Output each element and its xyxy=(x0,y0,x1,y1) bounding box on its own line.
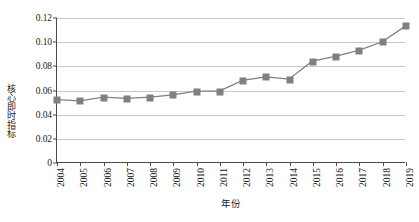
x-axis-title: 年份 xyxy=(56,196,405,210)
data-point xyxy=(193,88,200,95)
x-tick-label: 2013 xyxy=(265,168,275,187)
x-tick-label: 2018 xyxy=(382,168,392,187)
y-tick-label: 0.10 xyxy=(36,37,52,47)
data-point xyxy=(356,47,363,54)
x-tick-mark xyxy=(220,162,221,166)
x-tick-label: 2010 xyxy=(196,168,206,187)
x-tick-mark xyxy=(406,162,407,166)
x-tick-mark xyxy=(150,162,151,166)
x-tick-mark xyxy=(57,162,58,166)
data-point xyxy=(54,97,61,104)
x-tick-mark xyxy=(383,162,384,166)
x-tick-label: 2005 xyxy=(79,168,89,187)
y-tick-label: 0 xyxy=(47,158,52,168)
x-tick-label: 2006 xyxy=(103,168,113,187)
data-point xyxy=(100,94,107,101)
y-axis-title: 核心即时指标 xyxy=(6,84,15,138)
series-line xyxy=(57,18,405,162)
x-tick-label: 2008 xyxy=(149,168,159,187)
data-point xyxy=(77,98,84,105)
y-tick-label: 0.04 xyxy=(36,110,52,120)
x-tick-mark xyxy=(313,162,314,166)
data-point xyxy=(286,76,293,83)
x-tick-label: 2007 xyxy=(126,168,136,187)
x-tick-mark xyxy=(243,162,244,166)
data-point xyxy=(263,74,270,81)
data-point xyxy=(123,95,130,102)
x-tick-mark xyxy=(266,162,267,166)
x-tick-mark xyxy=(80,162,81,166)
x-tick-label: 2004 xyxy=(56,168,66,187)
x-tick-mark xyxy=(359,162,360,166)
x-tick-mark xyxy=(127,162,128,166)
data-point xyxy=(379,39,386,46)
x-tick-mark xyxy=(197,162,198,166)
data-point xyxy=(216,88,223,95)
x-tick-label: 2016 xyxy=(335,168,345,187)
x-tick-label: 2017 xyxy=(358,168,368,187)
data-point xyxy=(403,23,410,30)
data-point xyxy=(240,77,247,84)
x-tick-mark xyxy=(290,162,291,166)
y-tick-label: 0.02 xyxy=(36,134,52,144)
data-point xyxy=(309,58,316,65)
y-tick-label: 0.12 xyxy=(36,13,52,23)
plot-area: 00.020.040.060.080.100.12 20042005200620… xyxy=(56,18,405,163)
data-point xyxy=(333,53,340,60)
x-tick-label: 2015 xyxy=(312,168,322,187)
x-tick-mark xyxy=(104,162,105,166)
y-tick-label: 0.06 xyxy=(36,86,52,96)
x-tick-label: 2019 xyxy=(405,168,415,187)
data-point xyxy=(170,92,177,99)
x-tick-mark xyxy=(173,162,174,166)
data-point xyxy=(147,94,154,101)
x-tick-label: 2009 xyxy=(172,168,182,187)
x-tick-mark xyxy=(336,162,337,166)
x-tick-label: 2011 xyxy=(219,168,229,187)
chart-container: 核心即时指标 00.020.040.060.080.100.12 2004200… xyxy=(0,0,419,222)
x-tick-label: 2014 xyxy=(289,168,299,187)
x-tick-label: 2012 xyxy=(242,168,252,187)
series-polyline xyxy=(57,26,405,100)
y-tick-label: 0.08 xyxy=(36,61,52,71)
